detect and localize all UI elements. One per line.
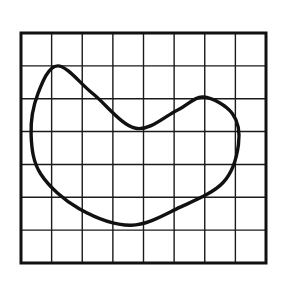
grid-vertical-lines — [52, 33, 236, 263]
bean-curve — [31, 66, 239, 225]
figure-canvas — [0, 0, 284, 292]
grid-and-curve-svg — [0, 0, 284, 292]
